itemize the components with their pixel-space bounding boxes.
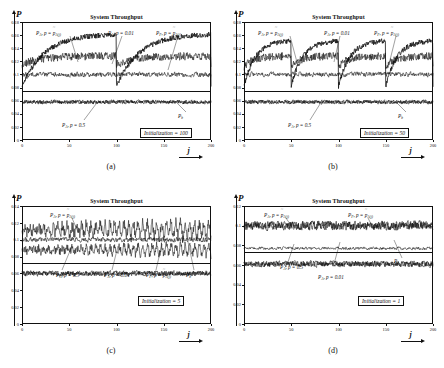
leader-layer <box>0 184 222 368</box>
panel-caption: (b) <box>313 162 353 171</box>
initialization-box: Initialization = 50 <box>360 128 409 138</box>
initialization-box: Initialization = 5 <box>138 296 184 306</box>
panel-caption: (d) <box>313 346 353 355</box>
panel-caption: (c) <box>91 346 131 355</box>
leader-layer <box>222 0 444 184</box>
chart-panel-c: PSystem Throughput00.020.040.060.080.10.… <box>0 184 222 368</box>
leader-layer <box>0 0 222 184</box>
leader-layer <box>222 184 444 368</box>
chart-panel-b: PSystem Throughput00.020.040.060.080.10.… <box>222 0 444 184</box>
panel-caption: (a) <box>91 162 131 171</box>
figure-container: PSystem Throughput00.020.040.060.080.10.… <box>0 0 444 368</box>
chart-panel-a: PSystem Throughput00.020.040.060.080.10.… <box>0 0 222 184</box>
initialization-box: Initialization = 100 <box>140 128 192 138</box>
chart-panel-d: PSystem Throughput00.020.040.060.080.10.… <box>222 184 444 368</box>
initialization-box: Initialization = 1 <box>358 296 404 306</box>
